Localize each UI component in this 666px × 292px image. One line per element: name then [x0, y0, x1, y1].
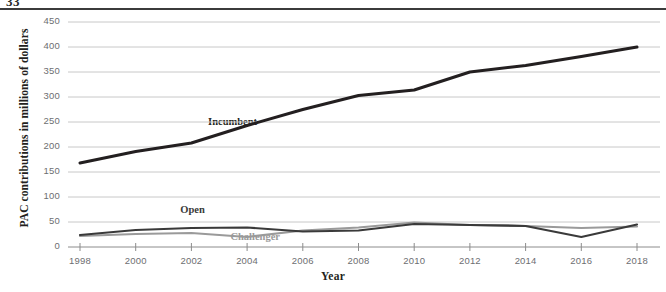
series-line-incumbent [80, 47, 637, 163]
plot-canvas [0, 0, 666, 292]
chart-figure: 33 PAC contributions in millions of doll… [0, 0, 666, 292]
series-lines [80, 47, 637, 237]
grid-lines [68, 22, 660, 222]
